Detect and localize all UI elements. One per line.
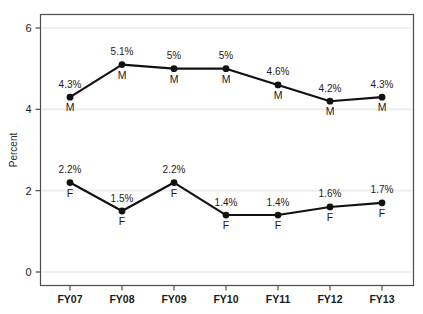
chart-canvas: 0246PercentFY07FY08FY09FY10FY11FY12FY134… — [0, 0, 423, 314]
data-point-M-FY11 — [275, 82, 282, 89]
data-point-M-FY10 — [223, 65, 230, 72]
data-label-M-FY10: 5% — [219, 50, 234, 61]
data-point-M-FY12 — [327, 98, 334, 105]
data-label-M-FY09: 5% — [167, 50, 182, 61]
series-marker-letter-M-FY08: M — [118, 69, 127, 81]
data-label-M-FY11: 4.6% — [267, 66, 290, 77]
data-label-F-FY09: 2.2% — [163, 164, 186, 175]
series-marker-letter-F-FY09: F — [171, 187, 177, 199]
data-label-F-FY10: 1.4% — [215, 197, 238, 208]
y-tick-label-0: 0 — [25, 266, 31, 278]
series-marker-letter-F-FY12: F — [327, 211, 333, 223]
data-point-F-FY08 — [119, 208, 126, 215]
data-point-F-FY12 — [327, 204, 334, 211]
series-marker-letter-F-FY11: F — [275, 219, 281, 231]
data-point-M-FY09 — [171, 65, 178, 72]
data-label-F-FY11: 1.4% — [267, 197, 290, 208]
data-point-F-FY07 — [67, 179, 74, 186]
x-tick-label-FY12: FY12 — [317, 293, 342, 305]
data-point-F-FY13 — [379, 199, 386, 206]
data-label-M-FY13: 4.3% — [371, 79, 394, 90]
data-point-M-FY07 — [67, 94, 74, 101]
data-label-M-FY08: 5.1% — [111, 46, 134, 57]
series-marker-letter-M-FY12: M — [326, 105, 335, 117]
series-marker-letter-M-FY13: M — [378, 101, 387, 113]
x-tick-label-FY08: FY08 — [109, 293, 134, 305]
x-tick-label-FY10: FY10 — [213, 293, 238, 305]
x-tick-label-FY13: FY13 — [369, 293, 394, 305]
data-label-F-FY13: 1.7% — [371, 184, 394, 195]
data-point-M-FY13 — [379, 94, 386, 101]
series-marker-letter-F-FY10: F — [223, 219, 229, 231]
data-label-F-FY07: 2.2% — [59, 164, 82, 175]
line-chart: 0246PercentFY07FY08FY09FY10FY11FY12FY134… — [0, 0, 423, 314]
series-marker-letter-F-FY08: F — [119, 215, 125, 227]
y-tick-label-6: 6 — [25, 22, 31, 34]
series-marker-letter-M-FY07: M — [66, 101, 75, 113]
x-tick-label-FY09: FY09 — [161, 293, 186, 305]
y-axis-title: Percent — [8, 133, 19, 168]
x-tick-label-FY07: FY07 — [57, 293, 82, 305]
series-marker-letter-M-FY11: M — [274, 89, 283, 101]
data-label-M-FY12: 4.2% — [319, 83, 342, 94]
data-point-M-FY08 — [119, 61, 126, 68]
y-tick-label-4: 4 — [25, 103, 31, 115]
data-point-F-FY10 — [223, 212, 230, 219]
series-marker-letter-F-FY07: F — [67, 187, 73, 199]
x-tick-label-FY11: FY11 — [266, 293, 291, 305]
data-label-F-FY12: 1.6% — [319, 188, 342, 199]
chart-background — [0, 0, 423, 314]
data-point-F-FY09 — [171, 179, 178, 186]
series-marker-letter-F-FY13: F — [379, 207, 385, 219]
series-marker-letter-M-FY10: M — [222, 73, 231, 85]
data-label-M-FY07: 4.3% — [59, 79, 82, 90]
series-marker-letter-M-FY09: M — [170, 73, 179, 85]
data-point-F-FY11 — [275, 212, 282, 219]
data-label-F-FY08: 1.5% — [111, 193, 134, 204]
y-tick-label-2: 2 — [25, 185, 31, 197]
